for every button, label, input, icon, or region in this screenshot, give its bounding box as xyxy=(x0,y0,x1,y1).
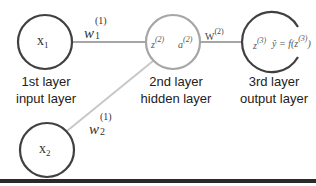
layer-3-label: 3rd layer output layer xyxy=(237,73,311,107)
layer-1-label: 1st layer input layer xyxy=(11,73,81,107)
layer-2-label: 2nd layer hidden layer xyxy=(139,73,213,107)
weight-w1-label: w(1)1 xyxy=(84,24,108,42)
bottom-divider xyxy=(0,179,316,183)
weight-w2-label: w(1)2 xyxy=(89,120,113,138)
hidden-a-label: a(2) xyxy=(178,35,192,50)
x1-label: x1 xyxy=(37,33,49,50)
neural-network-diagram: x1 x2 z(2) a(2) z(3) ŷ = f(z(3)) w(1)1 w… xyxy=(0,0,316,186)
weight-W2-label: W(2) xyxy=(205,27,224,42)
output-yhat-label: ŷ = f(z(3)) xyxy=(256,34,311,49)
hidden-z-label: z(2) xyxy=(151,35,164,50)
x2-label: x2 xyxy=(39,141,51,158)
